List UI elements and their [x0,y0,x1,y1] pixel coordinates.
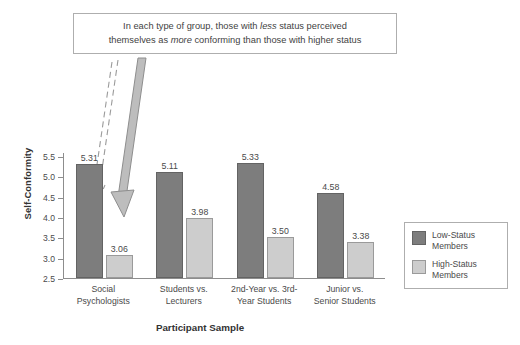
y-tick-mark [58,177,63,178]
bar-low-status: 4.58 [317,193,344,278]
legend-item-low-status: Low-Status Members [412,230,501,252]
annotation-line2-emphasis: more [171,35,192,45]
bar-value-label: 3.50 [272,226,289,236]
bar-value-label: 3.38 [352,231,369,241]
bar-low-status: 5.33 [237,163,264,278]
x-axis-title: Participant Sample [0,322,400,333]
y-tick-label: 4.0 [43,213,55,223]
legend-label-low-line2: Members [432,241,468,251]
legend-label-high-line2: Members [432,270,468,280]
bar-group: 5.333.50 [237,163,294,278]
y-tick-label: 3.0 [43,254,55,264]
x-category-label-line: Psychologists [77,296,130,306]
bar-value-label: 5.31 [81,153,98,163]
bar-high-status: 3.06 [106,255,133,278]
plot-area: 5.55.04.54.03.53.02.5 5.313.065.113.985.… [63,157,385,279]
y-tick-mark [58,279,63,280]
bar-chart-figure: In each type of group, those with less s… [0,0,520,345]
annotation-line1-pre: In each type of group, those with [123,21,260,31]
bar-low-status: 5.11 [156,172,183,278]
x-category-label-line: Senior Students [314,296,376,306]
bar-high-status: 3.38 [347,242,374,278]
bar-value-label: 3.06 [111,244,128,254]
legend: Low-Status Members High-Status Members [404,222,508,289]
bar-value-label: 4.58 [322,182,339,192]
legend-label-high-line1: High-Status [432,259,477,269]
y-tick-label: 2.5 [43,274,55,284]
legend-item-high-status: High-Status Members [412,259,501,281]
y-tick-mark [58,218,63,219]
y-tick-label: 4.5 [43,193,55,203]
annotation-line1-emphasis: less [260,21,277,31]
annotation-text: In each type of group, those with less s… [109,20,362,47]
legend-label-low-status: Low-Status Members [432,230,475,252]
y-tick-label: 5.5 [43,152,55,162]
y-tick-label: 3.5 [43,233,55,243]
x-category-label-line: Social [91,284,115,294]
bar-value-label: 5.33 [242,152,259,162]
legend-swatch-high-status [412,260,426,274]
x-category-label-line: Year Students [237,296,291,306]
y-tick-mark [58,157,63,158]
annotation-line2-post: conforming than those with higher status [192,35,362,45]
x-axis-line [63,278,385,279]
annotation-line2-pre: themselves as [109,35,171,45]
bar-value-label: 3.98 [191,207,208,217]
y-tick-mark [58,238,63,239]
bar-high-status: 3.98 [186,218,213,278]
y-axis-line [63,153,64,279]
x-category-label: Junior vs.Senior Students [297,284,394,307]
bar-group: 5.313.06 [76,164,133,278]
x-category-label-line: 2nd-Year vs. 3rd- [231,284,297,294]
x-category-label-line: Lecturers [166,296,202,306]
x-category-label-line: Junior vs. [326,284,363,294]
bar-group: 4.583.38 [317,193,374,278]
annotation-callout: In each type of group, those with less s… [73,13,397,54]
legend-swatch-low-status [412,231,426,245]
y-tick-label: 5.0 [43,172,55,182]
y-tick-mark [58,259,63,260]
annotation-line1-post: status perceived [277,21,347,31]
bar-low-status: 5.31 [76,164,103,278]
y-axis-title: Self-Conformity [22,129,33,239]
bar-high-status: 3.50 [267,237,294,278]
legend-label-high-status: High-Status Members [432,259,477,281]
bar-group: 5.113.98 [156,172,213,278]
y-tick-mark [58,198,63,199]
x-category-label-line: Students vs. [160,284,208,294]
legend-label-low-line1: Low-Status [432,230,475,240]
bar-value-label: 5.11 [162,161,178,171]
